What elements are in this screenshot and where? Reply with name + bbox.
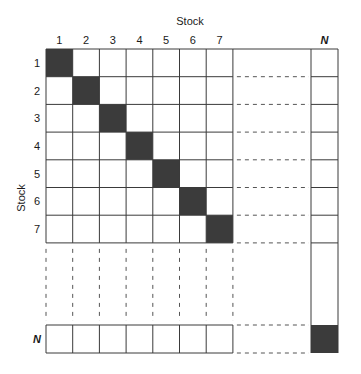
stock-matrix-diagram: StockStock1234567N1234567N — [0, 0, 361, 374]
row-label: 6 — [34, 195, 40, 207]
diagonal-cell — [180, 188, 207, 216]
row-label: 1 — [34, 57, 40, 69]
row-label: 5 — [34, 168, 40, 180]
row-label: 7 — [34, 223, 40, 235]
column-label: 7 — [216, 34, 222, 46]
column-label: 3 — [110, 34, 116, 46]
diagonal-cell — [99, 104, 126, 132]
column-label: 6 — [190, 34, 196, 46]
diagonal-cell — [46, 49, 73, 77]
column-label: 4 — [136, 34, 142, 46]
column-label: 2 — [83, 34, 89, 46]
diagonal-cell — [73, 77, 100, 105]
diagonal-cell — [153, 160, 180, 188]
row-label: 3 — [34, 112, 40, 124]
diagonal-cell — [126, 132, 153, 160]
row-label-n: N — [33, 333, 42, 345]
left-axis-title: Stock — [15, 184, 27, 212]
diagonal-cell-n — [311, 325, 338, 353]
top-axis-title: Stock — [176, 15, 204, 27]
row-label: 4 — [34, 140, 40, 152]
diagonal-cell — [206, 215, 233, 243]
column-label-n: N — [321, 34, 330, 46]
row-label: 2 — [34, 85, 40, 97]
column-label: 5 — [163, 34, 169, 46]
column-label: 1 — [56, 34, 62, 46]
